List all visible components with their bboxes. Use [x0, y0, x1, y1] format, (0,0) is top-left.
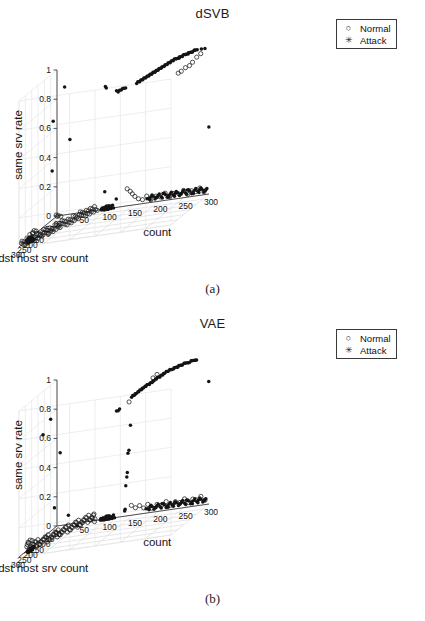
svg-text:same srv rate: same srv rate [12, 110, 24, 180]
point-attack [207, 125, 211, 128]
point-attack [63, 85, 67, 89]
point-attack [127, 448, 131, 452]
legend-b: ○ Normal ✳ Attack [336, 329, 397, 359]
point-attack [200, 47, 204, 51]
point-attack [203, 47, 207, 51]
point-attack [187, 361, 191, 365]
point-attack [180, 192, 184, 196]
point-attack [68, 138, 72, 142]
point-attack [130, 395, 134, 399]
panel-b: VAE 00.20.40.60.813002502001501005000501… [0, 310, 425, 620]
point-attack [194, 358, 198, 362]
point-attack [165, 370, 169, 374]
point-attack [181, 55, 185, 59]
point-attack [162, 372, 166, 376]
svg-text:0.4: 0.4 [39, 153, 51, 163]
point-attack [159, 195, 163, 199]
point-attack [161, 192, 165, 196]
circle-marker-icon: ○ [340, 334, 357, 343]
point-attack [167, 195, 171, 199]
point-attack [67, 513, 71, 517]
point-attack [171, 59, 175, 63]
point-attack [126, 452, 130, 456]
point-attack [184, 191, 188, 195]
point-attack [177, 55, 181, 59]
point-attack [116, 90, 120, 94]
point-attack [112, 206, 116, 210]
svg-text:0: 0 [46, 211, 51, 221]
point-attack [193, 189, 197, 193]
point-attack [187, 51, 191, 55]
point-attack [184, 53, 188, 57]
point-attack [137, 390, 141, 394]
point-attack [125, 475, 129, 479]
legend-a: ○ Normal ✳ Attack [336, 19, 397, 49]
point-attack [129, 423, 133, 427]
point-attack [191, 502, 195, 506]
point-attack [168, 61, 172, 65]
point-attack [51, 120, 55, 124]
point-attack [172, 502, 176, 506]
point-attack [160, 502, 164, 506]
svg-text:0.8: 0.8 [39, 94, 51, 104]
point-attack [147, 74, 151, 78]
point-attack [76, 524, 80, 528]
svg-text:0.2: 0.2 [39, 492, 51, 502]
point-attack [155, 196, 159, 200]
legend-entry-normal: ○ Normal [340, 22, 391, 34]
svg-text:150: 150 [128, 518, 142, 528]
svg-text:0: 0 [46, 521, 51, 531]
point-attack [158, 375, 162, 379]
svg-text:count: count [143, 226, 172, 238]
panel-caption-b: (b) [0, 591, 425, 607]
point-attack [203, 499, 207, 503]
point-attack [190, 359, 194, 363]
point-attack [174, 57, 178, 61]
point-attack [144, 76, 148, 80]
point-attack [49, 417, 53, 421]
point-normal [195, 55, 199, 59]
point-attack [168, 192, 172, 196]
asterisk-marker-icon: ✳ [340, 36, 357, 45]
point-attack [133, 392, 137, 396]
point-attack [122, 87, 126, 91]
point-attack [192, 499, 196, 503]
point-attack [53, 506, 57, 510]
svg-text:250: 250 [179, 201, 193, 211]
point-attack [180, 363, 184, 367]
point-attack [105, 516, 109, 520]
point-attack [106, 206, 110, 210]
svg-text:150: 150 [128, 208, 142, 218]
point-attack [105, 86, 109, 90]
point-attack [185, 498, 189, 502]
axis-ticks: 00.20.40.60.8130025020015010050005010015… [11, 65, 218, 260]
point-attack [116, 409, 120, 413]
point-attack [140, 387, 144, 391]
svg-text:250: 250 [179, 511, 193, 521]
svg-text:100: 100 [103, 522, 117, 532]
axis-ticks: 00.20.40.60.8130025020015010050005010015… [11, 375, 218, 570]
svg-text:200: 200 [153, 514, 167, 524]
point-attack [58, 451, 62, 455]
svg-text:0.8: 0.8 [39, 404, 51, 414]
point-attack [141, 78, 145, 82]
point-attack [103, 190, 107, 194]
point-normal [137, 504, 141, 508]
svg-text:100: 100 [103, 212, 117, 222]
point-attack [162, 65, 166, 69]
point-attack [176, 365, 180, 369]
point-normal [190, 60, 194, 64]
svg-text:count: count [143, 536, 172, 548]
legend-label-normal: Normal [357, 23, 391, 34]
point-attack [148, 505, 152, 509]
svg-text:0: 0 [57, 219, 62, 229]
point-attack [144, 385, 148, 389]
point-normal [199, 52, 203, 56]
circle-marker-icon: ○ [340, 24, 357, 33]
point-attack [123, 509, 127, 513]
svg-text:0.2: 0.2 [39, 182, 51, 192]
point-attack [172, 366, 176, 370]
svg-text:dst host srv count: dst host srv count [0, 252, 89, 264]
point-attack [158, 505, 162, 509]
legend-label-attack: Attack [357, 345, 386, 356]
